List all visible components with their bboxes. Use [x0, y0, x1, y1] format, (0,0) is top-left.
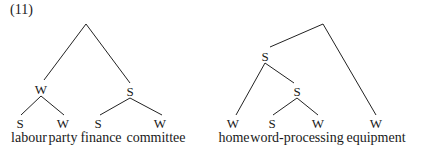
edge	[297, 98, 318, 115]
word: party	[49, 130, 78, 145]
node-label: W	[312, 116, 325, 131]
edge	[86, 24, 130, 83]
edge	[21, 96, 41, 115]
edge	[270, 24, 323, 47]
edge	[323, 24, 376, 115]
node-label: W	[370, 116, 383, 131]
node-label: W	[35, 82, 48, 97]
word: labour	[11, 130, 47, 145]
node-label: S	[126, 84, 133, 99]
node-label: S	[16, 116, 23, 131]
edge	[41, 96, 64, 115]
tree-2-edges	[236, 24, 376, 115]
prosodic-trees: W S S W S W labour party finance committ…	[0, 0, 423, 152]
node-label: S	[268, 116, 275, 131]
tree-1-edges	[21, 24, 162, 115]
word: committee	[126, 130, 185, 145]
edge	[44, 24, 86, 80]
edge	[100, 98, 130, 115]
word: equipment	[346, 130, 405, 145]
node-label: W	[227, 116, 240, 131]
word: word-processing	[250, 130, 343, 145]
edge	[265, 63, 294, 83]
edge	[130, 98, 162, 115]
node-label: S	[293, 84, 300, 99]
node-label: W	[154, 116, 167, 131]
word: home	[218, 130, 249, 145]
edge	[273, 98, 297, 115]
node-label: S	[94, 116, 101, 131]
word: finance	[80, 130, 121, 145]
node-label: W	[57, 116, 70, 131]
edge	[236, 63, 265, 115]
node-label: S	[261, 49, 268, 64]
